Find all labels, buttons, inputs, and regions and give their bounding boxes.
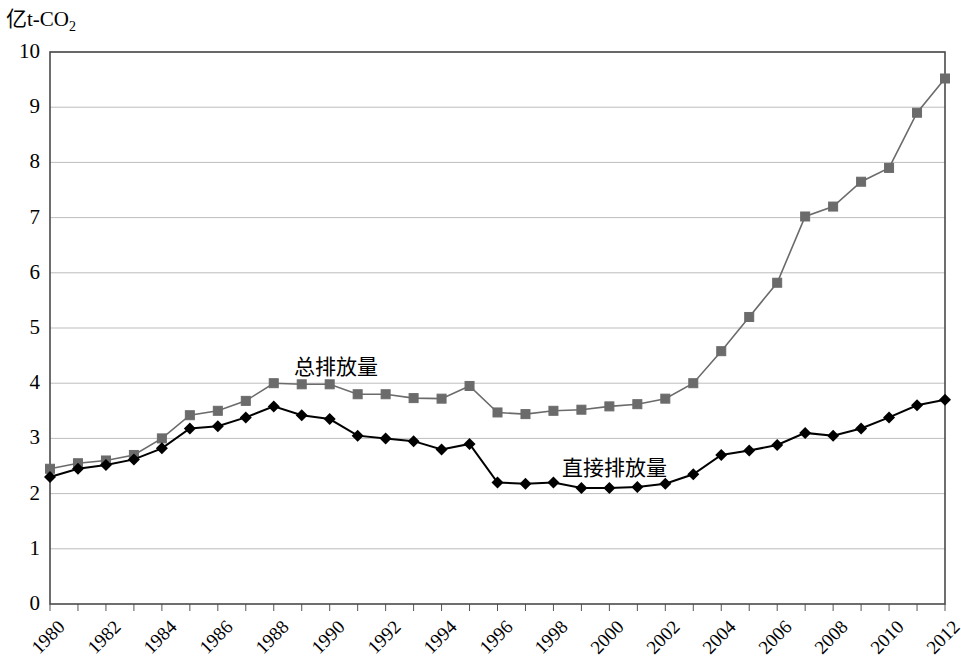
data-point-marker <box>268 400 280 412</box>
data-point-marker <box>212 420 224 432</box>
data-point-marker <box>883 411 895 423</box>
data-point-marker <box>157 434 166 443</box>
data-point-marker <box>631 481 643 493</box>
y-axis-tick-label: 0 <box>6 591 40 616</box>
y-axis-tick-label: 5 <box>6 315 40 340</box>
y-axis-tick-label: 1 <box>6 536 40 561</box>
data-point-marker <box>577 405 586 414</box>
data-point-marker <box>519 478 531 490</box>
y-axis-tick-label: 8 <box>6 149 40 174</box>
data-point-marker <box>521 410 530 419</box>
data-point-marker <box>436 443 448 455</box>
data-point-marker <box>939 394 951 406</box>
data-point-marker <box>715 449 727 461</box>
data-point-marker <box>913 108 922 117</box>
y-axis-tick-label: 2 <box>6 481 40 506</box>
data-point-marker <box>240 411 252 423</box>
y-axis-tick-label: 10 <box>6 39 40 64</box>
series-annotation-total-emissions: 总排放量 <box>294 350 378 380</box>
data-point-marker <box>717 347 726 356</box>
data-point-marker <box>409 394 418 403</box>
y-axis-tick-label: 6 <box>6 260 40 285</box>
data-point-marker <box>745 312 754 321</box>
data-series-group <box>44 74 951 494</box>
data-point-marker <box>801 212 810 221</box>
data-point-marker <box>661 394 670 403</box>
data-point-marker <box>687 468 699 480</box>
data-point-marker <box>465 381 474 390</box>
data-point-marker <box>633 400 642 409</box>
data-point-marker <box>296 409 308 421</box>
data-point-marker <box>269 379 278 388</box>
data-point-marker <box>773 278 782 287</box>
emissions-line-chart: 亿t-CO2 109876543210 19801982198419861988… <box>0 0 961 665</box>
data-point-marker <box>352 430 364 442</box>
data-point-marker <box>213 406 222 415</box>
data-point-marker <box>689 379 698 388</box>
data-point-marker <box>297 380 306 389</box>
data-point-marker <box>380 432 392 444</box>
data-point-marker <box>493 408 502 417</box>
y-axis-tick-label: 4 <box>6 370 40 395</box>
data-point-marker <box>941 74 950 83</box>
data-point-marker <box>575 482 587 494</box>
data-point-marker <box>857 177 866 186</box>
data-point-marker <box>771 439 783 451</box>
data-point-marker <box>324 413 336 425</box>
data-point-marker <box>549 406 558 415</box>
data-point-marker <box>325 380 334 389</box>
x-axis-ticks-group <box>50 604 945 611</box>
data-point-marker <box>185 411 194 420</box>
data-point-marker <box>829 202 838 211</box>
y-axis-tick-label: 3 <box>6 425 40 450</box>
data-point-marker <box>353 390 362 399</box>
data-point-marker <box>911 399 923 411</box>
y-axis-tick-label: 7 <box>6 205 40 230</box>
plot-area-svg <box>0 0 961 665</box>
data-point-marker <box>241 396 250 405</box>
series-annotation-direct-emissions: 直接排放量 <box>562 451 667 481</box>
data-point-marker <box>603 482 615 494</box>
data-point-marker <box>885 163 894 172</box>
data-point-marker <box>547 477 559 489</box>
data-point-marker <box>799 427 811 439</box>
data-point-marker <box>381 390 390 399</box>
y-axis-tick-label: 9 <box>6 94 40 119</box>
gridlines-group <box>50 52 945 549</box>
data-point-marker <box>605 402 614 411</box>
data-point-marker <box>855 422 867 434</box>
data-point-marker <box>408 435 420 447</box>
series-total-emissions <box>46 74 950 473</box>
data-point-marker <box>827 430 839 442</box>
data-point-marker <box>437 394 446 403</box>
data-point-marker <box>743 445 755 457</box>
